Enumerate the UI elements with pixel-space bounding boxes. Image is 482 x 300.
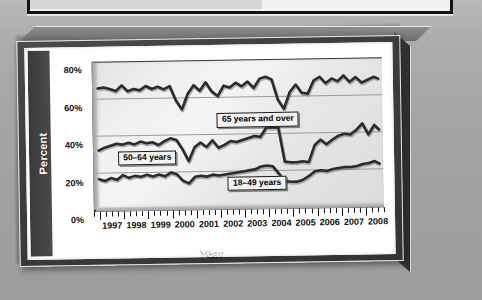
x-tick-major bbox=[293, 209, 294, 217]
series-label-2: 50–64 years bbox=[118, 150, 176, 165]
x-tick-minor bbox=[305, 208, 306, 213]
y-tick-label: 60% bbox=[64, 103, 82, 113]
x-tick-minor bbox=[348, 208, 349, 213]
x-tick-major bbox=[342, 208, 343, 216]
x-tick-major bbox=[172, 211, 173, 219]
x-tick-major bbox=[245, 209, 246, 217]
x-tick-label: 1999 bbox=[151, 220, 171, 230]
y-axis-tick-labels: 0%20%40%60%80% bbox=[51, 54, 88, 253]
x-tick-minor bbox=[378, 207, 379, 212]
x-tick-label: 1998 bbox=[126, 220, 146, 230]
x-tick-major bbox=[148, 211, 149, 219]
x-tick-major bbox=[197, 210, 198, 218]
y-tick-label: 40% bbox=[65, 140, 83, 150]
x-tick-minor bbox=[354, 208, 355, 213]
x-tick-label: 2003 bbox=[247, 218, 267, 228]
x-tick-label: 1997 bbox=[102, 220, 122, 230]
x-tick-label: 2005 bbox=[295, 217, 315, 227]
x-tick-minor bbox=[239, 210, 240, 215]
x-tick-minor bbox=[281, 209, 282, 214]
series-label-1: 65 years and over bbox=[217, 112, 299, 128]
x-tick-minor bbox=[106, 212, 107, 217]
x-tick-major bbox=[124, 211, 125, 219]
x-tick-minor bbox=[372, 207, 373, 212]
x-tick-minor bbox=[136, 211, 137, 216]
x-tick-minor bbox=[330, 208, 331, 213]
x-tick-minor bbox=[275, 209, 276, 214]
x-tick-label: 2006 bbox=[320, 217, 340, 227]
x-tick-minor bbox=[94, 212, 95, 217]
y-axis-title-band: Percent bbox=[27, 51, 52, 257]
x-tick-minor bbox=[251, 209, 252, 214]
x-tick-minor bbox=[263, 209, 264, 214]
x-tick-minor bbox=[130, 211, 131, 216]
x-tick-minor bbox=[287, 209, 288, 214]
x-tick-major bbox=[269, 209, 270, 217]
series-line-1 bbox=[97, 75, 378, 112]
x-tick-label: 2004 bbox=[271, 218, 291, 228]
chart-frame: Percent 0%20%40%60%80% 65 years and over… bbox=[16, 35, 404, 267]
x-tick-label: 2000 bbox=[175, 219, 195, 229]
x-tick-major bbox=[366, 208, 367, 216]
x-tick-minor bbox=[203, 210, 204, 215]
x-tick-minor bbox=[166, 211, 167, 216]
x-tick-minor bbox=[154, 211, 155, 216]
x-tick-label: 2002 bbox=[223, 218, 243, 228]
x-tick-minor bbox=[384, 207, 385, 212]
x-tick-label: 2008 bbox=[368, 216, 388, 226]
chart-card: Percent 0%20%40%60%80% 65 years and over… bbox=[27, 45, 392, 257]
y-tick-label: 20% bbox=[65, 177, 83, 187]
x-tick-major bbox=[100, 212, 101, 220]
y-axis-title: Percent bbox=[36, 114, 49, 194]
chart-frame-inner: Percent 0%20%40%60%80% 65 years and over… bbox=[24, 42, 395, 260]
x-tick-minor bbox=[360, 208, 361, 213]
top-panel-strip bbox=[30, 0, 262, 9]
x-tick-minor bbox=[323, 208, 324, 213]
x-tick-major bbox=[221, 210, 222, 218]
plot-wrapper: 0%20%40%60%80% 65 years and over50–64 ye… bbox=[51, 49, 388, 252]
x-tick-minor bbox=[112, 212, 113, 217]
x-tick-minor bbox=[233, 210, 234, 215]
y-tick-label: 0% bbox=[71, 215, 84, 225]
x-tick-minor bbox=[179, 210, 180, 215]
x-tick-minor bbox=[299, 209, 300, 214]
x-tick-minor bbox=[215, 210, 216, 215]
x-tick-minor bbox=[311, 208, 312, 213]
x-tick-label: 2007 bbox=[344, 217, 364, 227]
top-partial-panel bbox=[27, 0, 453, 14]
plot-area: 65 years and over50–64 years18–49 years bbox=[92, 57, 384, 212]
x-tick-minor bbox=[257, 209, 258, 214]
x-tick-minor bbox=[227, 210, 228, 215]
series-label-3: 18–49 years bbox=[228, 176, 286, 191]
x-tick-minor bbox=[142, 211, 143, 216]
x-tick-minor bbox=[209, 210, 210, 215]
x-tick-minor bbox=[185, 210, 186, 215]
x-tick-label: 2001 bbox=[199, 219, 219, 229]
x-tick-major bbox=[317, 208, 318, 216]
x-tick-minor bbox=[336, 208, 337, 213]
y-tick-label: 80% bbox=[64, 65, 82, 75]
x-tick-minor bbox=[118, 211, 119, 216]
x-tick-minor bbox=[160, 211, 161, 216]
x-tick-minor bbox=[191, 210, 192, 215]
